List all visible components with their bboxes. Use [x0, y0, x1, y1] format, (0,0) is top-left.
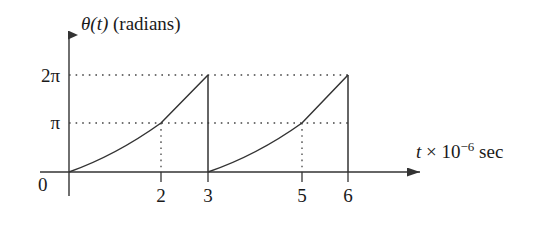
x-tick-label-2: 2: [146, 186, 176, 205]
x-axis-title-multiply-sign: ×: [426, 141, 437, 162]
y-tick-label-pi: π: [22, 113, 60, 132]
y-axis-title-unit: (radians): [113, 13, 181, 34]
x-tick-label-5: 5: [287, 186, 317, 205]
x-axis-title-base: 10: [442, 141, 461, 162]
x-tick-label-3: 3: [193, 186, 223, 205]
y-tick-label-2pi: 2π: [22, 66, 60, 85]
chart-plot-area: [0, 0, 559, 232]
x-tick-label-6: 6: [333, 186, 363, 205]
origin-label: 0: [38, 175, 58, 194]
phase-ramp-figure: θ(t) (radians) t × 10−6 sec 2π π 0 2 3 5…: [0, 0, 559, 232]
y-axis-title-symbol: θ(t): [81, 13, 108, 34]
x-axis-title: t × 10−6 sec: [416, 140, 503, 161]
y-axis-title: θ(t) (radians): [81, 14, 181, 33]
x-axis-title-exponent: −6: [461, 139, 475, 154]
x-axis-title-unit: sec: [479, 141, 503, 162]
